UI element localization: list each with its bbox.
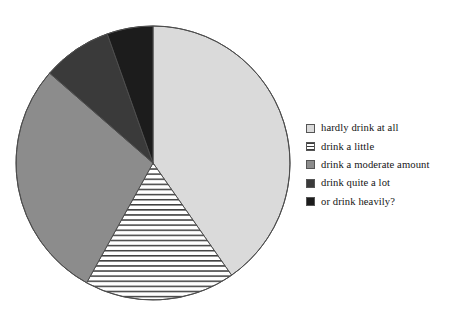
legend-swatch-icon-drink-a-moderate-amount [306, 160, 315, 169]
legend-item-or-drink-heavily: or drink heavily? [306, 193, 454, 211]
legend-swatch-fill [307, 125, 314, 132]
legend-swatch-icon-hardly-drink-at-all [306, 124, 315, 133]
legend-swatch-icon-or-drink-heavily [306, 197, 315, 206]
pie-chart-svg [0, 0, 310, 320]
legend-label: or drink heavily? [321, 196, 395, 208]
legend-label: hardly drink at all [321, 122, 399, 134]
legend-item-drink-quite-a-lot: drink quite a lot [306, 174, 454, 192]
legend-label: drink a moderate amount [321, 159, 430, 171]
legend-swatch-fill [307, 161, 314, 168]
pie-slice-group [16, 26, 290, 300]
pie-chart-plot-area [0, 0, 310, 320]
legend-item-drink-a-little: drink a little [306, 137, 454, 155]
legend-label: drink a little [321, 141, 374, 153]
pie-chart-figure: hardly drink at all drink a little drink… [0, 0, 457, 320]
legend-item-drink-a-moderate-amount: drink a moderate amount [306, 156, 454, 174]
legend-item-hardly-drink-at-all: hardly drink at all [306, 119, 454, 137]
legend-label: drink quite a lot [321, 177, 390, 189]
legend-swatch-icon-drink-a-little [306, 142, 315, 151]
chart-legend: hardly drink at all drink a little drink… [306, 119, 454, 211]
legend-swatch-fill [307, 180, 314, 187]
legend-swatch-fill [307, 198, 314, 205]
legend-swatch-icon-drink-quite-a-lot [306, 179, 315, 188]
legend-swatch-fill [307, 143, 314, 150]
